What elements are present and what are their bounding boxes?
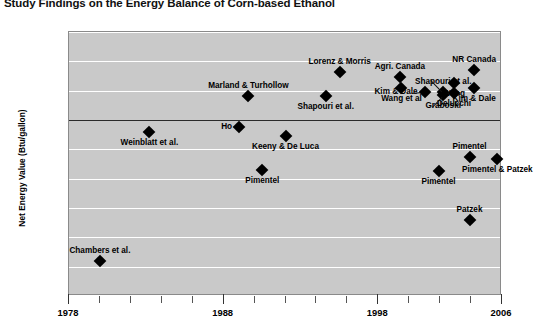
x-tick-mark-minor [346,296,347,303]
x-tick-mark-minor [192,296,193,303]
gridline [69,208,500,209]
x-tick-mark-minor [130,296,131,303]
x-tick-mark [68,294,69,304]
x-tick-mark-minor [408,296,409,303]
data-point-marker [491,152,504,165]
data-point-label: Pimentel [452,142,486,152]
data-point-label: Marland & Turhollow [208,81,288,91]
x-tick-label: 2006 [491,307,512,318]
x-tick-mark [223,294,224,304]
x-tick-mark-minor [285,296,286,303]
data-point-label: Keeny & De Luca [252,142,319,152]
y-axis-label: Net Energy Value (Btu/gallon) [17,98,27,238]
data-point-marker [279,130,292,143]
x-tick-mark-minor [315,296,316,303]
data-point-label: Weinblatt et al. [121,138,179,148]
gridline [69,237,500,238]
zero-line [69,120,500,121]
x-tick-mark-minor [161,296,162,303]
data-point-marker [432,165,445,178]
data-point-marker [256,163,269,176]
data-point-label: Pimentel [422,177,456,187]
gridline [69,267,500,268]
data-point-label: Kim & Dale [453,94,496,104]
data-point-marker [143,126,156,139]
x-tick-mark-minor [99,296,100,303]
data-point-label: Shapouri et al. [415,77,471,87]
data-point-marker [463,150,476,163]
data-point-label: Pimentel [245,176,279,186]
data-point-marker [94,254,107,267]
x-tick-label: 1978 [58,307,79,318]
x-tick-label: 1998 [367,307,388,318]
x-tick-mark [501,294,502,304]
x-tick-mark-minor [470,296,471,303]
data-point-marker [333,65,346,78]
data-point-label: Lorenz & Morris [308,57,370,67]
data-point-marker [233,121,246,134]
data-point-label: Ho [221,122,232,132]
data-point-label: Chambers et al. [69,246,130,256]
plot-area: Chambers et al.Weinblatt et al.Marland &… [68,31,501,295]
data-point-label: Shapouri et al. [297,102,353,112]
data-point-label: NR Canada [452,55,496,65]
data-point-label: Kim & Dale [374,87,417,97]
x-tick-label: 1988 [212,307,233,318]
chart-title: Study Findings on the Energy Balance of … [4,0,335,9]
data-point-marker [463,213,476,226]
x-tick-mark-minor [439,296,440,303]
x-tick-mark-minor [254,296,255,303]
data-point-label: Pimentel & Patzek [462,165,533,175]
data-point-marker [468,64,481,77]
data-point-label: Agri. Canada [375,62,426,72]
data-point-label: Patzek [457,205,483,215]
x-tick-mark [377,294,378,304]
gridline [69,32,500,33]
gridline [69,61,500,62]
